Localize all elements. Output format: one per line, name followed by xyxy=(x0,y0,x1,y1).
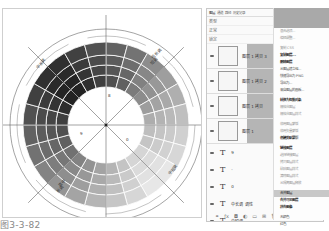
menu-item[interactable]: 拷贝图层样式 xyxy=(274,159,329,166)
menu-item[interactable]: 链接图层 xyxy=(274,145,329,152)
layer-context-menu: 混合选项...编辑调整...复制 CSS复制图层...删除图层从图层建立组...… xyxy=(273,8,329,220)
layer-thumbnail xyxy=(218,121,238,141)
eye-icon[interactable] xyxy=(210,186,214,188)
menu-item[interactable]: 导出为... xyxy=(274,80,329,87)
menu-item[interactable]: 拼合图像 xyxy=(274,204,329,211)
tab-layers[interactable]: 图层 xyxy=(209,10,215,15)
eye-icon[interactable] xyxy=(210,169,214,171)
layer-name: 图层 1 拷贝 3 xyxy=(242,53,267,59)
menu-item[interactable]: 栅格化图层 xyxy=(274,104,329,111)
menu-item[interactable]: 停用矢量蒙版 xyxy=(274,128,329,135)
menu-item[interactable]: 从隔离图层释放 xyxy=(274,180,329,187)
mask-icon[interactable]: ◘ xyxy=(234,213,238,219)
layer-thumbnail xyxy=(218,46,238,66)
eye-icon[interactable] xyxy=(210,130,214,132)
menu-item[interactable]: 粘贴图层样式 xyxy=(274,166,329,173)
eye-icon[interactable] xyxy=(210,203,214,205)
new-layer-icon[interactable]: ⊞ xyxy=(262,213,266,219)
menu-item[interactable]: 从图层建立组... xyxy=(274,66,329,73)
link-icon[interactable]: ⚭ xyxy=(215,213,219,219)
menu-item[interactable]: 选择链接图层 xyxy=(274,152,329,159)
wheel-label: 9 xyxy=(80,131,83,136)
menu-item[interactable]: 复制 CSS xyxy=(274,45,329,52)
layer-name: 0 xyxy=(231,184,234,189)
layer-name: 中长调 调性 xyxy=(231,201,252,207)
kind-filter[interactable]: 类型 xyxy=(209,18,217,24)
menu-item[interactable]: 清除图层样式 xyxy=(274,173,329,180)
layer-name: 图层 1 拷贝 2 xyxy=(242,78,267,84)
menu-item[interactable]: 栅格化图层样式 xyxy=(274,111,329,118)
tab-history[interactable]: 历史记录 xyxy=(233,10,245,15)
menu-item[interactable]: 停用图层蒙版 xyxy=(274,121,329,128)
menu-item[interactable]: 快速导出为 PNG xyxy=(274,73,329,80)
group-icon[interactable]: ▭ xyxy=(252,213,257,219)
layers-bottom-bar: ⚭ fx ◘ ◐ ▭ ⊞ 🗑 xyxy=(215,213,277,219)
tonal-color-wheel: 低长调短调中长调高中长调中短调890 xyxy=(3,9,201,217)
adjustment-icon[interactable]: ◐ xyxy=(243,213,247,219)
menu-header xyxy=(274,8,329,28)
wheel-label: 中长调 xyxy=(34,57,46,70)
eye-icon[interactable] xyxy=(210,105,214,107)
lock-label: 锁定 xyxy=(209,36,217,42)
tab-paths[interactable]: 路径 xyxy=(225,10,231,15)
wheel-label: 0 xyxy=(126,137,129,142)
menu-item[interactable]: 混合选项... xyxy=(274,28,329,35)
text-layer-icon: T xyxy=(220,148,225,157)
layer-thumbnail xyxy=(218,71,238,91)
menu-item[interactable]: 无颜色 xyxy=(274,214,329,221)
text-layer-icon: T xyxy=(220,182,225,191)
menu-item[interactable]: 合并可见图层 xyxy=(274,197,329,204)
wheel-label: 8 xyxy=(108,93,111,98)
tab-channels[interactable]: 通道 xyxy=(217,10,223,15)
figure-caption: 图3-3-82 xyxy=(0,218,41,231)
menu-item[interactable]: 合并图层 xyxy=(274,190,329,197)
layer-thumbnail xyxy=(218,96,238,116)
text-layer-icon: T xyxy=(220,165,225,174)
layer-name: 图层 1 拷贝 xyxy=(242,103,263,109)
menu-item[interactable]: 来自图层的画板... xyxy=(274,87,329,94)
layer-name: 图层 1 xyxy=(242,128,254,134)
canvas-frame: 低长调短调中长调高中长调中短调890 xyxy=(2,8,202,218)
menu-item[interactable]: 复制图层... xyxy=(274,52,329,59)
layer-name: 9 xyxy=(231,150,234,155)
menu-item[interactable]: 红色 xyxy=(274,221,329,228)
blend-mode-select[interactable]: 正常 xyxy=(209,27,217,33)
menu-item[interactable]: 删除图层 xyxy=(274,59,329,66)
menu-item[interactable]: 创建剪贴蒙版 xyxy=(274,135,329,142)
menu-item[interactable]: 编辑调整... xyxy=(274,35,329,42)
text-layer-icon: T xyxy=(220,199,225,208)
eye-icon[interactable] xyxy=(210,220,214,222)
menu-item[interactable]: 转换为智能对象 xyxy=(274,97,329,104)
eye-icon[interactable] xyxy=(210,80,214,82)
layer-name: - xyxy=(231,167,232,172)
eye-icon[interactable] xyxy=(210,55,214,57)
eye-icon[interactable] xyxy=(210,152,214,154)
fx-icon[interactable]: fx xyxy=(224,213,229,219)
